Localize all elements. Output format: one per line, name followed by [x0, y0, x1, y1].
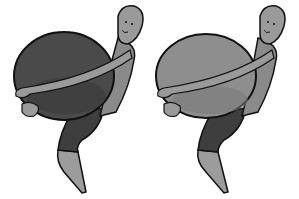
lower-leg: [198, 150, 228, 193]
illustration-canvas: [0, 0, 299, 199]
head: [260, 6, 285, 44]
figure-dark-ball-illustration: [0, 0, 150, 199]
figure-light-ball-illustration: [150, 0, 299, 199]
eye: [267, 21, 269, 23]
hand: [164, 102, 181, 116]
eye: [131, 23, 133, 25]
hand: [22, 102, 39, 116]
eye: [125, 21, 127, 23]
eye: [273, 23, 275, 25]
panel-right-light-ball: [150, 0, 299, 199]
panel-left-dark-ball: [0, 0, 150, 199]
head: [118, 6, 143, 44]
lower-leg: [58, 150, 86, 193]
